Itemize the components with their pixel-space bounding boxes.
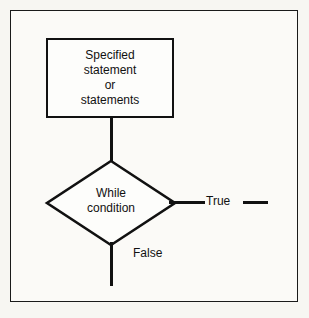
process-node-specified-statements[interactable]: Specified statement or statements — [46, 38, 174, 118]
edge-label-true: True — [206, 194, 230, 209]
process-node-line-3: or — [105, 78, 116, 93]
edge-true-segment-right — [243, 201, 268, 204]
flowchart-canvas: Specified statement or statements While … — [0, 0, 309, 318]
edge-process-to-decision — [110, 118, 113, 163]
process-node-line-2: statement — [84, 63, 137, 78]
edge-false-segment — [110, 242, 113, 286]
process-node-line-4: statements — [81, 93, 140, 108]
decision-node-while-condition[interactable] — [44, 158, 178, 248]
edge-true-segment-left — [169, 201, 205, 204]
edge-label-false: False — [133, 246, 162, 261]
process-node-line-1: Specified — [85, 48, 134, 63]
